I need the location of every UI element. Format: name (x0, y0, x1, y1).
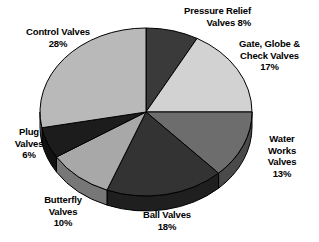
slice-label-ball-valves: Ball Valves 18% (115, 209, 219, 232)
slice-label-line: Pressure Relief (146, 5, 251, 17)
slice-label-line: Control Valves (8, 26, 108, 38)
slice-label-line: Gate, Globe & (222, 38, 317, 50)
slice-label-line: Valves (2, 138, 56, 150)
slice-label-line: Butterfly (23, 194, 103, 206)
slice-label-line: 6% (2, 149, 56, 161)
slice-label-line: 10% (23, 217, 103, 229)
slice-label-control-valves: Control Valves 28% (8, 26, 108, 49)
pie-top-face-group (40, 28, 252, 196)
slice-label-line: 28% (8, 38, 108, 50)
slice-label-line: Works (250, 145, 314, 157)
pie-chart-figure: Pressure Relief Valves 8% Gate, Globe & … (0, 0, 319, 242)
slice-label-line: Plug (2, 126, 56, 138)
slice-label-line: Valves (250, 156, 314, 168)
slice-label-line: Valves (23, 206, 103, 218)
slice-label-line: 17% (222, 61, 317, 73)
slice-label-line: Valves 8% (146, 17, 251, 29)
slice-label-line: 13% (250, 168, 314, 180)
slice-label-line: Ball Valves (115, 209, 219, 221)
slice-label-line: Water (250, 133, 314, 145)
slice-label-gate-globe-check-valves: Gate, Globe & Check Valves 17% (222, 38, 317, 73)
slice-label-pressure-relief-valves: Pressure Relief Valves 8% (146, 5, 251, 28)
slice-label-water-works-valves: Water Works Valves 13% (250, 133, 314, 179)
slice-label-plug-valves: Plug Valves 6% (2, 126, 56, 161)
slice-label-butterfly-valves: Butterfly Valves 10% (23, 194, 103, 229)
slice-label-line: Check Valves (222, 50, 317, 62)
slice-label-line: 18% (115, 221, 219, 233)
